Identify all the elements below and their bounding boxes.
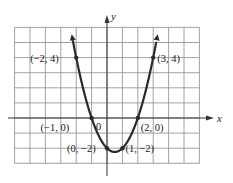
point-marker: (1, −2) xyxy=(120,143,154,155)
point-label: (1, −2) xyxy=(125,143,154,155)
point-dot xyxy=(89,116,93,120)
point-dot xyxy=(136,116,140,120)
parabola-curve xyxy=(73,40,156,152)
labeled-points: (−2, 4)(3, 4)(−1, 0)(2, 0)(0, −2)(1, −2) xyxy=(30,53,180,156)
point-marker: (2, 0) xyxy=(136,116,164,134)
y-axis-label: y xyxy=(110,10,116,22)
graph-canvas: (−2, 4)(3, 4)(−1, 0)(2, 0)(0, −2)(1, −2)… xyxy=(0,0,233,183)
point-marker: (3, 4) xyxy=(151,53,180,65)
point-dot xyxy=(74,55,78,59)
point-marker: (−2, 4) xyxy=(30,53,78,65)
origin-label: 0 xyxy=(96,121,101,132)
point-marker: (−1, 0) xyxy=(41,116,94,134)
point-dot xyxy=(151,55,155,59)
x-axis-label: x xyxy=(216,112,222,124)
point-label: (2, 0) xyxy=(141,122,164,134)
point-dot xyxy=(105,146,109,150)
parabola-graph: (−2, 4)(3, 4)(−1, 0)(2, 0)(0, −2)(1, −2)… xyxy=(0,0,233,183)
point-dot xyxy=(120,146,124,150)
point-label: (−1, 0) xyxy=(41,122,70,134)
point-label: (3, 4) xyxy=(157,53,180,65)
point-label: (0, −2) xyxy=(67,143,96,155)
curve-arrows xyxy=(70,34,160,40)
point-label: (−2, 4) xyxy=(30,53,59,65)
